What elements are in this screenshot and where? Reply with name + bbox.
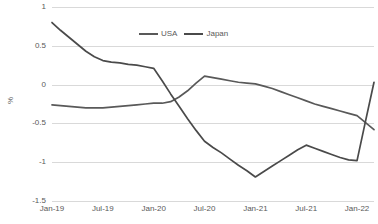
legend-label: USA bbox=[161, 29, 177, 38]
legend-label: Japan bbox=[206, 29, 228, 38]
series-line-usa bbox=[52, 76, 374, 130]
chart-legend: USAJapan bbox=[139, 29, 228, 38]
legend-item-usa[interactable]: USA bbox=[139, 29, 177, 38]
line-chart: % 10.50-0.5-1-1.5 Jan-19Jul-19Jan-20Jul-… bbox=[0, 0, 378, 224]
legend-item-japan[interactable]: Japan bbox=[184, 29, 228, 38]
legend-line-icon bbox=[184, 33, 203, 35]
legend-line-icon bbox=[139, 33, 158, 35]
series-line-japan bbox=[52, 23, 374, 177]
